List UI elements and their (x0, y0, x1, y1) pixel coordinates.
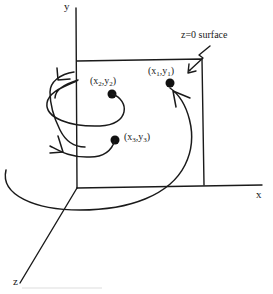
caption-faded (22, 287, 102, 289)
surface-pointer-zigzag (190, 46, 210, 70)
point-3-label: (x3,y3) (124, 131, 150, 144)
z-axis-label: z (13, 275, 18, 287)
diagram-canvas: y x z z=0 surface (x1,y1) (x2,y2) (x3,y3… (0, 0, 273, 294)
y-axis-label: y (64, 0, 70, 12)
point-1-dot (166, 79, 175, 88)
surface-pointer-arrow-shaft (189, 70, 190, 71)
trajectory-point-1 (5, 88, 191, 210)
y-axis (76, 8, 77, 188)
surface-label: z=0 surface (181, 29, 228, 40)
point-2-label: (x2,y2) (90, 75, 116, 88)
x-axis-label: x (256, 188, 262, 200)
point-1-label: (x1,y1) (148, 65, 174, 78)
spiral-lower-arrowhead (50, 136, 63, 153)
